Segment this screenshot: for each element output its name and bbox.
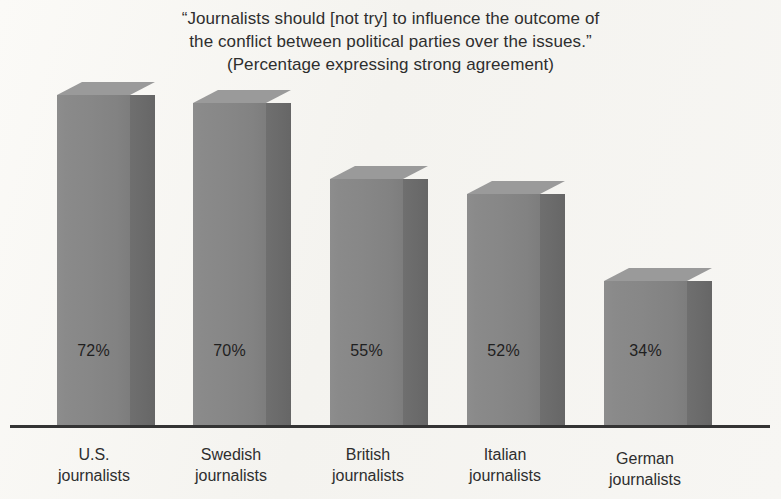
plot-area: 72% 70% 55% 52% 34% (0, 0, 781, 499)
category-label-swedish-journalists: Swedish journalists (184, 444, 278, 486)
bar-value-label-2: 70% (193, 342, 266, 360)
category-label-british-journalists: British journalists (321, 444, 415, 486)
category-label-line-1-b: journalists (47, 465, 141, 486)
bar-side-face-3 (403, 179, 428, 427)
category-label-italian-journalists: Italian journalists (458, 444, 552, 486)
bar-side-face-4 (540, 194, 565, 427)
bar-top-face-5 (604, 268, 712, 281)
bar-side-face-1 (130, 95, 155, 427)
category-label-line-3-b: journalists (321, 465, 415, 486)
bar-top-face-2 (193, 90, 291, 103)
category-label-line-4-a: Italian (458, 444, 552, 465)
bar-top-face-1 (57, 82, 155, 95)
category-label-german-journalists: German journalists (598, 448, 692, 490)
bar-front-face-2 (193, 103, 266, 427)
bar-side-face-5 (687, 281, 712, 427)
category-label-line-2-a: Swedish (184, 444, 278, 465)
category-label-us-journalists: U.S. journalists (47, 444, 141, 486)
bar-value-label-1: 72% (57, 342, 130, 360)
bar-top-face-4 (467, 181, 565, 194)
bar-value-label-5: 34% (604, 342, 687, 360)
category-label-line-5-a: German (598, 448, 692, 469)
bar-front-face-1 (57, 95, 130, 427)
category-label-line-3-a: British (321, 444, 415, 465)
category-label-line-5-b: journalists (598, 469, 692, 490)
bar-value-label-4: 52% (467, 342, 540, 360)
category-label-line-4-b: journalists (458, 465, 552, 486)
bar-side-face-2 (266, 103, 291, 427)
bar-group-german-journalists[interactable]: 34% (604, 268, 712, 427)
bar-group-italian-journalists[interactable]: 52% (467, 181, 565, 427)
bar-top-face-3 (330, 166, 428, 179)
axis-baseline (10, 425, 770, 428)
bar-front-face-3 (330, 179, 403, 427)
bar-group-us-journalists[interactable]: 72% (57, 82, 155, 427)
bar-front-face-4 (467, 194, 540, 427)
category-label-line-2-b: journalists (184, 465, 278, 486)
category-label-line-1-a: U.S. (47, 444, 141, 465)
bar-group-british-journalists[interactable]: 55% (330, 166, 428, 427)
bar-value-label-3: 55% (330, 342, 403, 360)
bar-group-swedish-journalists[interactable]: 70% (193, 90, 291, 427)
bar-chart: “Journalists should [not try] to influen… (0, 0, 781, 499)
